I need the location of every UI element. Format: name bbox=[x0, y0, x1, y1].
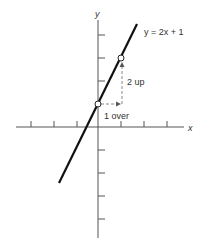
line-graph: x y 2 up 1 over y = 2x + 1 bbox=[0, 0, 200, 247]
equation-label: y = 2x + 1 bbox=[144, 27, 184, 37]
y-axis-label: y bbox=[94, 9, 100, 19]
rise-arrow bbox=[120, 62, 125, 104]
run-label: 1 over bbox=[104, 111, 129, 121]
run-arrow bbox=[101, 102, 121, 107]
point-intercept bbox=[95, 101, 101, 107]
point-1-3 bbox=[118, 55, 124, 61]
x-axis-ticks bbox=[31, 121, 167, 127]
x-axis-label: x bbox=[187, 123, 193, 133]
rise-label: 2 up bbox=[127, 77, 145, 87]
